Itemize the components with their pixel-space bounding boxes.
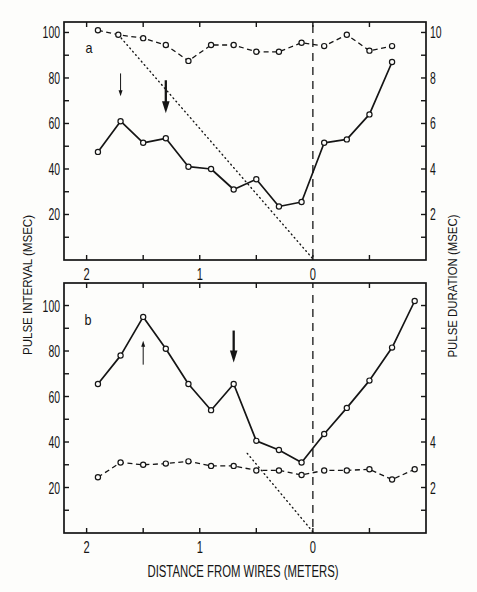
pulse-duration-marker	[208, 42, 213, 47]
pulse-duration-marker	[389, 44, 394, 49]
pulse-interval-marker	[367, 378, 372, 383]
x-tick-label: 0	[310, 265, 316, 284]
pulse-duration-marker	[412, 467, 417, 472]
y-tick-label-right: 4	[430, 433, 436, 452]
pulse-interval-marker	[186, 164, 191, 169]
pulse-interval-marker	[141, 314, 146, 319]
plot-frame	[64, 22, 426, 260]
pulse-duration-marker	[322, 468, 327, 473]
pulse-interval-marker	[389, 345, 394, 350]
y-tick-label-right: 4	[430, 160, 436, 179]
plot-frame	[64, 283, 426, 533]
pulse-duration-marker	[254, 49, 259, 54]
pulse-duration-marker	[254, 468, 259, 473]
pulse-interval-marker	[163, 136, 168, 141]
panel-a: 21020406080100246810a	[43, 22, 442, 284]
pulse-interval-marker	[254, 177, 259, 182]
pulse-duration-marker	[389, 477, 394, 482]
pulse-interval-marker	[367, 112, 372, 117]
thick-arrowhead-icon	[230, 350, 238, 362]
pulse-interval-marker	[299, 199, 304, 204]
pulse-duration-marker	[299, 472, 304, 477]
y-tick-label-left: 60	[48, 114, 60, 133]
pulse-duration-marker	[367, 467, 372, 472]
y-tick-label-right: 10	[430, 23, 442, 42]
pulse-duration-marker	[163, 461, 168, 466]
x-tick-label: 0	[310, 538, 316, 557]
y-tick-label-left: 80	[48, 69, 60, 88]
pulse-duration-marker	[141, 36, 146, 41]
pulse-interval-marker	[299, 460, 304, 465]
pulse-duration-marker	[95, 28, 100, 33]
pulse-duration-marker	[118, 460, 123, 465]
pulse-interval-marker	[254, 438, 259, 443]
x-tick-label: 2	[84, 538, 90, 557]
pulse-interval-marker	[95, 149, 100, 154]
figure: 21020406080100246810a 2102040608010024b …	[0, 0, 477, 592]
pulse-duration-marker	[163, 42, 168, 47]
x-tick-label: 2	[84, 265, 90, 284]
pulse-interval-marker	[276, 204, 281, 209]
y-tick-label-left: 20	[48, 479, 60, 498]
pulse-duration-marker	[276, 49, 281, 54]
pulse-interval-marker	[322, 431, 327, 436]
thin-arrowhead-icon	[119, 90, 123, 96]
dotted-trend-line	[118, 35, 313, 259]
pulse-duration-marker	[367, 48, 372, 53]
y-tick-label-right: 2	[430, 205, 436, 224]
left-axis-title: PULSE INTERVAL (MSEC)	[21, 215, 35, 355]
pulse-duration-marker	[231, 463, 236, 468]
pulse-interval-marker	[95, 381, 100, 386]
y-tick-label-left: 100	[43, 297, 60, 316]
x-tick-label: 1	[197, 265, 203, 284]
panel-b: 2102040608010024b	[43, 283, 436, 557]
pulse-duration-marker	[276, 468, 281, 473]
pulse-interval-marker	[231, 187, 236, 192]
pulse-duration-marker	[344, 468, 349, 473]
pulse-interval-marker	[389, 59, 394, 64]
pulse-interval-marker	[344, 405, 349, 410]
pulse-duration-marker	[116, 32, 121, 37]
pulse-interval-marker	[208, 166, 213, 171]
panel-label: b	[85, 311, 92, 328]
y-tick-label-right: 8	[430, 69, 436, 88]
panel-label: a	[86, 39, 94, 56]
y-tick-label-left: 40	[48, 433, 60, 452]
pulse-interval-marker	[186, 381, 191, 386]
pulse-interval-marker	[322, 140, 327, 145]
pulse-interval-marker	[208, 408, 213, 413]
pulse-interval-line	[98, 62, 392, 207]
pulse-interval-marker	[163, 346, 168, 351]
thin-arrowhead-icon	[141, 341, 145, 347]
pulse-interval-marker	[276, 447, 281, 452]
pulse-duration-marker	[186, 459, 191, 464]
pulse-duration-marker	[95, 475, 100, 480]
x-tick-label: 1	[197, 538, 203, 557]
thick-arrowhead-icon	[162, 101, 170, 113]
pulse-duration-marker	[322, 44, 327, 49]
right-axis-title: PULSE DURATION (MSEC)	[446, 215, 460, 358]
pulse-interval-marker	[231, 381, 236, 386]
pulse-duration-marker	[231, 42, 236, 47]
pulse-duration-marker	[186, 58, 191, 63]
pulse-duration-marker	[344, 32, 349, 37]
pulse-interval-marker	[118, 353, 123, 358]
x-axis-title: DISTANCE FROM WIRES (METERS)	[148, 563, 339, 580]
y-tick-label-right: 2	[430, 479, 436, 498]
y-tick-label-left: 80	[48, 342, 60, 361]
pulse-duration-marker	[141, 462, 146, 467]
y-tick-label-left: 40	[48, 160, 60, 179]
y-tick-label-left: 20	[48, 205, 60, 224]
pulse-duration-marker	[299, 40, 304, 45]
y-tick-label-left: 100	[43, 23, 60, 42]
y-tick-label-left: 60	[48, 388, 60, 407]
pulse-duration-marker	[208, 463, 213, 468]
y-tick-label-right: 6	[430, 114, 436, 133]
pulse-interval-marker	[141, 140, 146, 145]
pulse-interval-marker	[412, 298, 417, 303]
pulse-interval-marker	[118, 119, 123, 124]
pulse-interval-marker	[344, 137, 349, 142]
